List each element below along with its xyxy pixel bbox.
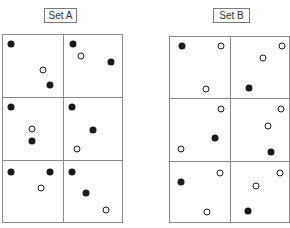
filled-dot [29, 138, 36, 145]
filled-dot [212, 135, 219, 142]
filled-dot [90, 127, 97, 134]
filled-dot [69, 104, 76, 111]
open-dot [260, 55, 267, 62]
open-dot [78, 53, 85, 60]
grid-divider-vertical [63, 35, 64, 222]
filled-dot [70, 41, 77, 48]
filled-dot [8, 169, 15, 176]
open-dot [253, 183, 260, 190]
open-dot [279, 43, 286, 50]
open-dot [204, 209, 211, 216]
set-b-label: Set B [213, 8, 250, 23]
open-dot [277, 170, 284, 177]
grid-divider-vertical [230, 37, 231, 222]
open-dot [29, 126, 36, 133]
grid-divider-horizontal [3, 160, 122, 161]
open-dot [40, 67, 47, 74]
open-dot [74, 146, 81, 153]
filled-dot [8, 41, 15, 48]
open-dot [265, 123, 272, 130]
filled-dot [47, 169, 54, 176]
filled-dot [179, 43, 186, 50]
open-dot [38, 185, 45, 192]
set-b-grid [169, 36, 290, 223]
filled-dot [8, 104, 15, 111]
open-dot [203, 86, 210, 93]
open-dot [217, 170, 224, 177]
grid-divider-horizontal [170, 161, 289, 162]
open-dot [218, 43, 225, 50]
filled-dot [245, 208, 252, 215]
filled-dot [83, 190, 90, 197]
set-a-grid [2, 34, 123, 223]
filled-dot [108, 59, 115, 66]
filled-dot [178, 179, 185, 186]
filled-dot [268, 149, 275, 156]
grid-divider-horizontal [3, 97, 122, 98]
grid-divider-horizontal [170, 98, 289, 99]
open-dot [218, 106, 225, 113]
filled-dot [246, 85, 253, 92]
open-dot [178, 146, 185, 153]
set-a-label: Set A [44, 8, 77, 23]
filled-dot [47, 82, 54, 89]
filled-dot [69, 169, 76, 176]
open-dot [103, 207, 110, 214]
open-dot [278, 106, 285, 113]
